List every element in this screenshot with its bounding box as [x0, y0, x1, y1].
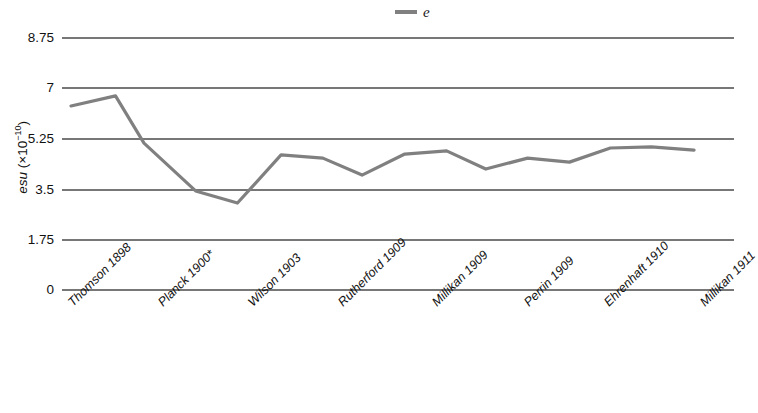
x-axis: Thomson 1898 Planck 1900* Wilson 1903 Ru…: [62, 292, 734, 410]
plot-area: [62, 30, 734, 298]
y-tick-label-5-25: 5.25: [28, 132, 54, 146]
data-line-series-e: [71, 96, 694, 203]
chart-legend: e: [395, 2, 430, 22]
y-axis-title-prefix: esu: [15, 172, 30, 194]
legend-label-e: e: [423, 5, 430, 20]
legend-line-swatch-icon: [395, 10, 417, 14]
y-tick-label-3-5: 3.5: [35, 183, 54, 197]
y-axis-title-unit-close: ): [15, 121, 30, 126]
y-axis: 8.75 7 5.25 3.5 1.75 0 esu (×10−10): [0, 30, 58, 298]
plot-svg: [62, 30, 734, 298]
y-tick-label-0: 0: [46, 283, 54, 297]
y-tick-label-1-75: 1.75: [28, 233, 54, 247]
y-axis-title-exponent: −10: [13, 126, 23, 141]
y-tick-label-8-75: 8.75: [28, 31, 54, 45]
y-axis-title-unit-open: (×10: [15, 141, 30, 172]
y-tick-label-7: 7: [46, 81, 54, 95]
y-axis-title: esu (×10−10): [16, 72, 31, 242]
